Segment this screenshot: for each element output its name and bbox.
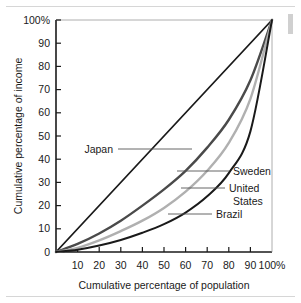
x-tick-label: 90 [245, 259, 257, 271]
lorenz-curve-chart: 0102030405060708090100% 1020304050607080… [0, 0, 301, 303]
series-label-sweden: Sweden [233, 165, 271, 177]
y-tick-label: 40 [38, 153, 50, 165]
y-axis-tick-labels: 0102030405060708090100% [23, 14, 50, 258]
series-label-brazil: Brazil [216, 208, 242, 220]
x-tick-label: 20 [93, 259, 105, 271]
y-tick-label: 20 [38, 199, 50, 211]
y-axis-title: Cumulative percentage of income [12, 58, 24, 215]
y-tick-label: 0 [44, 246, 50, 258]
x-tick-label: 60 [180, 259, 192, 271]
x-tick-label: 100% [259, 259, 286, 271]
y-tick-label: 50 [38, 130, 50, 142]
series-label-states: States [233, 195, 263, 207]
y-tick-label: 80 [38, 60, 50, 72]
y-tick-label: 30 [38, 176, 50, 188]
x-axis-title: Cumulative percentage of population [78, 279, 249, 291]
y-tick-label: 100% [23, 14, 50, 26]
x-axis-tick-labels: 102030405060708090100% [72, 259, 286, 271]
x-tick-label: 80 [223, 259, 235, 271]
y-tick-label: 10 [38, 222, 50, 234]
x-tick-label: 70 [201, 259, 213, 271]
series-label-united: United [229, 182, 260, 194]
y-tick-label: 90 [38, 37, 50, 49]
series-annotations-group: JapanSwedenUnitedStatesBrazil [84, 143, 271, 220]
y-tick-label: 60 [38, 106, 50, 118]
y-tick-label: 70 [38, 83, 50, 95]
x-tick-label: 40 [137, 259, 149, 271]
x-tick-label: 50 [158, 259, 170, 271]
figure-container: 0102030405060708090100% 1020304050607080… [0, 0, 301, 303]
series-label-japan: Japan [84, 143, 113, 155]
x-tick-label: 10 [72, 259, 84, 271]
x-tick-label: 30 [115, 259, 127, 271]
